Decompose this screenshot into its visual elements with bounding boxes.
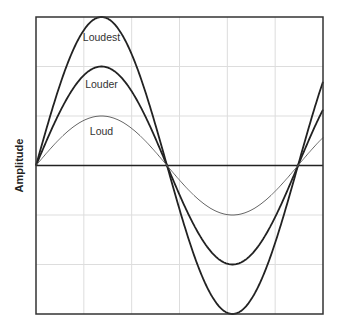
label-louder: Louder bbox=[85, 78, 118, 90]
label-loudest: Loudest bbox=[83, 31, 120, 43]
y-axis-label: Amplitude bbox=[13, 139, 25, 193]
amplitude-chart: LoudestLouderLoud Amplitude bbox=[0, 0, 337, 326]
label-loud: Loud bbox=[90, 125, 114, 137]
series-labels: LoudestLouderLoud bbox=[83, 31, 120, 137]
